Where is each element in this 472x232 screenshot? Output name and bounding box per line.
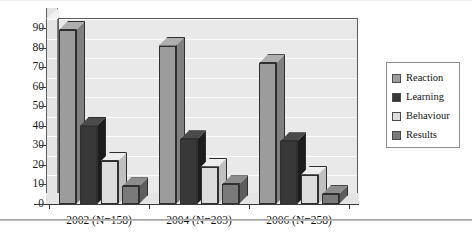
legend-swatch-icon bbox=[392, 131, 401, 140]
side-gridline bbox=[47, 58, 57, 59]
side-gridline bbox=[47, 156, 57, 157]
bar bbox=[259, 63, 276, 204]
y-tick bbox=[40, 28, 46, 29]
side-gridline bbox=[47, 19, 57, 20]
top-divider bbox=[0, 0, 472, 1]
bar-front-face bbox=[159, 46, 176, 204]
bar-front-face bbox=[222, 184, 239, 204]
y-tick bbox=[40, 184, 46, 185]
gridline bbox=[59, 39, 357, 40]
legend-item[interactable]: Behaviour bbox=[392, 107, 450, 125]
bar bbox=[101, 161, 118, 204]
legend-label: Reaction bbox=[406, 73, 443, 84]
bar-front-face bbox=[59, 30, 76, 204]
y-tick bbox=[40, 126, 46, 127]
legend-item[interactable]: Learning bbox=[392, 88, 444, 106]
legend-label: Learning bbox=[406, 92, 444, 103]
legend-item[interactable]: Results bbox=[392, 126, 437, 144]
side-gridline bbox=[47, 97, 57, 98]
bar-front-face bbox=[122, 186, 139, 204]
bar bbox=[322, 194, 339, 204]
bar bbox=[122, 186, 139, 204]
legend: ReactionLearningBehaviourResults bbox=[386, 62, 460, 148]
bar-front-face bbox=[301, 175, 318, 204]
gridline bbox=[59, 78, 357, 79]
plot-side-wall bbox=[46, 8, 58, 194]
bottom-divider bbox=[0, 219, 472, 221]
bar bbox=[201, 167, 218, 204]
y-tick bbox=[40, 67, 46, 68]
bar-front-face bbox=[101, 161, 118, 204]
bar bbox=[80, 126, 97, 204]
legend-label: Behaviour bbox=[406, 111, 450, 122]
x-axis-line bbox=[34, 204, 359, 205]
side-gridline bbox=[47, 78, 57, 79]
y-tick bbox=[40, 145, 46, 146]
bar bbox=[59, 30, 76, 204]
legend-swatch-icon bbox=[392, 74, 401, 83]
bar-front-face bbox=[322, 194, 339, 204]
legend-swatch-icon bbox=[392, 93, 401, 102]
bar-front-face bbox=[180, 139, 197, 204]
bar bbox=[280, 141, 297, 204]
gridline bbox=[59, 19, 357, 20]
bar-front-face bbox=[280, 141, 297, 204]
bar-front-face bbox=[259, 63, 276, 204]
bar bbox=[180, 139, 197, 204]
y-tick bbox=[40, 106, 46, 107]
side-gridline bbox=[47, 136, 57, 137]
x-axis-labels: 2002 (N=158)2004 (N=203)2006 (N=258) bbox=[22, 208, 370, 228]
bar bbox=[222, 184, 239, 204]
gridline bbox=[59, 58, 357, 59]
bar-chart: 0102030405060708090 2002 (N=158)2004 (N=… bbox=[22, 8, 370, 213]
legend-item[interactable]: Reaction bbox=[392, 69, 443, 87]
y-tick bbox=[40, 204, 46, 205]
y-tick bbox=[40, 87, 46, 88]
figure: 0102030405060708090 2002 (N=158)2004 (N=… bbox=[0, 0, 472, 232]
bar bbox=[159, 46, 176, 204]
legend-swatch-icon bbox=[392, 112, 401, 121]
bar-front-face bbox=[201, 167, 218, 204]
legend-label: Results bbox=[406, 130, 437, 141]
gridline bbox=[59, 97, 357, 98]
side-gridline bbox=[47, 117, 57, 118]
y-tick bbox=[40, 165, 46, 166]
side-gridline bbox=[47, 175, 57, 176]
bar-front-face bbox=[80, 126, 97, 204]
side-gridline bbox=[47, 39, 57, 40]
y-tick bbox=[40, 48, 46, 49]
bar bbox=[301, 175, 318, 204]
